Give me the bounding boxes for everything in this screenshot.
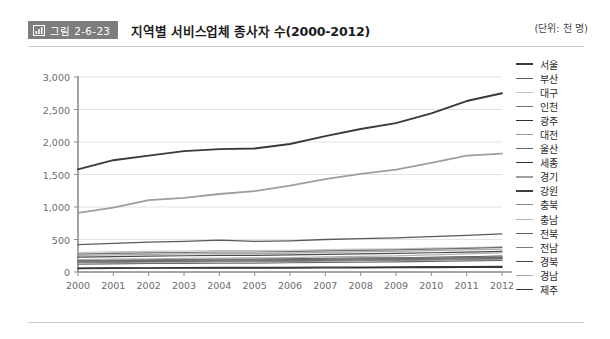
legend-swatch-icon [516,275,533,276]
legend-label: 충남 [540,212,558,227]
legend-label: 제주 [540,282,558,297]
x-axis-tick-label: 2003 [164,280,204,291]
legend-item-전북[interactable]: 전북 [516,226,602,240]
legend-swatch-icon [516,289,533,290]
legend-swatch-icon [516,219,533,220]
legend-swatch-icon [516,120,533,121]
legend-label: 부산 [540,71,558,86]
legend-label: 경기 [540,169,558,184]
legend-label: 세종 [540,155,558,170]
legend-item-경기[interactable]: 경기 [516,170,602,184]
x-axis-tick-label: 2001 [93,280,133,291]
chart-legend: 서울부산대구인천광주대전울산세종경기강원충북충남전북전남경북경남제주 [516,57,602,297]
y-axis-tick-label: 3,000 [26,72,70,83]
legend-label: 전남 [540,240,558,255]
legend-swatch-icon [516,190,533,192]
series-lines [78,93,502,268]
legend-swatch-icon [516,162,533,163]
legend-swatch-icon [516,261,533,262]
figure-container: 그림 2-6-23 지역별 서비스업체 종사자 수(2000-2012) (단위… [0,0,610,339]
legend-label: 대전 [540,127,558,142]
legend-item-인천[interactable]: 인천 [516,99,602,113]
legend-label: 전북 [540,226,558,241]
x-axis-tick-label: 2002 [129,280,169,291]
bar-chart-icon [33,25,45,36]
y-axis-tick-label: 0 [26,267,70,278]
page-title: 지역별 서비스업체 종사자 수(2000-2012) [131,21,370,40]
legend-label: 경남 [540,268,558,283]
legend-item-부산[interactable]: 부산 [516,71,602,85]
x-axis-tick-label: 2006 [270,280,310,291]
footer-divider [28,322,584,323]
x-axis-tick-label: 2011 [447,280,487,291]
legend-label: 충북 [540,197,558,212]
y-axis-tick-label: 1,500 [26,169,70,180]
legend-item-충남[interactable]: 충남 [516,212,602,226]
legend-label: 서울 [540,57,558,72]
legend-label: 대구 [540,85,558,100]
legend-label: 강원 [540,183,558,198]
legend-item-경북[interactable]: 경북 [516,254,602,268]
legend-swatch-icon [516,92,533,93]
x-axis-tick-label: 2008 [341,280,381,291]
legend-item-대구[interactable]: 대구 [516,85,602,99]
figure-number-label: 그림 2-6-23 [50,23,110,38]
x-axis-tick-label: 2010 [411,280,451,291]
legend-item-강원[interactable]: 강원 [516,184,602,198]
x-axis-tick-label: 2009 [376,280,416,291]
y-axis-tick-label: 2,000 [26,137,70,148]
legend-label: 울산 [540,141,558,156]
x-axis-tick-label: 2004 [199,280,239,291]
legend-swatch-icon [516,247,533,248]
legend-item-경남[interactable]: 경남 [516,268,602,282]
legend-item-제주[interactable]: 제주 [516,283,602,297]
legend-swatch-icon [516,204,533,205]
legend-swatch-icon [516,78,533,79]
series-line-서울 [78,93,502,169]
legend-item-광주[interactable]: 광주 [516,113,602,127]
x-axis-tick-label: 2005 [235,280,275,291]
legend-item-전남[interactable]: 전남 [516,240,602,254]
y-axis-tick-label: 500 [26,234,70,245]
figure-header: 그림 2-6-23 지역별 서비스업체 종사자 수(2000-2012) [28,17,584,43]
legend-item-대전[interactable]: 대전 [516,127,602,141]
x-axis-tick-label: 2000 [58,280,98,291]
legend-swatch-icon [516,148,533,149]
x-axis-tick-label: 2007 [305,280,345,291]
legend-item-서울[interactable]: 서울 [516,57,602,71]
legend-swatch-icon [516,233,533,234]
y-axis-tick-label: 1,000 [26,202,70,213]
legend-item-충북[interactable]: 충북 [516,198,602,212]
legend-label: 경북 [540,254,558,269]
legend-item-울산[interactable]: 울산 [516,142,602,156]
legend-item-세종[interactable]: 세종 [516,156,602,170]
legend-label: 광주 [540,113,558,128]
legend-label: 인천 [540,99,558,114]
y-axis-tick-label: 2,500 [26,104,70,115]
legend-swatch-icon [516,106,533,107]
header-divider [28,46,584,47]
legend-swatch-icon [516,176,533,178]
series-line-경기 [78,154,502,213]
legend-swatch-icon [516,63,533,65]
legend-swatch-icon [516,134,533,135]
figure-number-badge: 그림 2-6-23 [28,21,118,39]
unit-note: (단위: 천 명) [534,20,588,35]
